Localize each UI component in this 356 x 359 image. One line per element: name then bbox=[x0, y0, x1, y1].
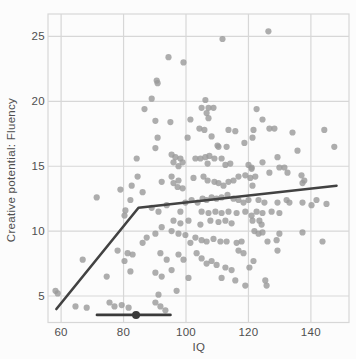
scatter-point bbox=[299, 200, 305, 206]
scatter-point bbox=[192, 235, 198, 241]
scatter-point bbox=[94, 194, 100, 200]
scatter-point bbox=[155, 209, 161, 215]
scatter-point bbox=[159, 274, 165, 280]
scatter-point bbox=[224, 144, 230, 150]
scatter-point bbox=[155, 292, 161, 298]
scatter-point bbox=[266, 170, 272, 176]
scatter-point bbox=[199, 209, 205, 215]
scatter-point bbox=[115, 248, 121, 254]
scatter-point bbox=[219, 155, 225, 161]
scatter-point bbox=[159, 179, 165, 185]
scatter-point bbox=[215, 219, 221, 225]
scatter-point bbox=[175, 251, 181, 257]
scatter-point bbox=[229, 220, 235, 226]
scatter-point bbox=[252, 174, 258, 180]
scatter-point bbox=[299, 180, 305, 186]
scatter-point bbox=[210, 105, 216, 111]
scatter-point bbox=[211, 155, 217, 161]
scatter-point bbox=[127, 197, 133, 203]
scatter-point bbox=[209, 133, 215, 139]
scatter-point bbox=[187, 116, 193, 122]
scatter-point bbox=[222, 218, 228, 224]
scatter-point bbox=[84, 305, 90, 311]
y-axis-title: Creative potential: Fluency bbox=[5, 98, 17, 242]
scatter-point bbox=[254, 106, 260, 112]
scatter-point bbox=[321, 127, 327, 133]
scatter-point bbox=[261, 200, 267, 206]
scatter-point bbox=[313, 197, 319, 203]
scatter-plot: 5101520256080100120140 Creative potentia… bbox=[0, 0, 356, 359]
scatter-point bbox=[294, 148, 300, 154]
scatter-point bbox=[262, 277, 268, 283]
scatter-point bbox=[227, 161, 233, 167]
scatter-point bbox=[177, 220, 183, 226]
y-tick-label: 20 bbox=[32, 95, 45, 107]
scatter-point bbox=[246, 264, 252, 270]
scatter-point bbox=[202, 97, 208, 103]
scatter-point bbox=[205, 161, 211, 167]
scatter-point bbox=[284, 170, 290, 176]
scatter-point bbox=[232, 277, 238, 283]
scatter-point bbox=[265, 28, 271, 34]
x-tick-label: 60 bbox=[54, 326, 67, 338]
scatter-point bbox=[229, 267, 235, 273]
scatter-point bbox=[169, 267, 175, 273]
scatter-point bbox=[129, 183, 135, 189]
scatter-point bbox=[164, 257, 170, 263]
scatter-point bbox=[165, 54, 171, 60]
scatter-point bbox=[249, 218, 255, 224]
scatter-point bbox=[235, 174, 241, 180]
scatter-point bbox=[185, 218, 191, 224]
scatter-point bbox=[331, 144, 337, 150]
scatter-point bbox=[209, 258, 215, 264]
scatter-point bbox=[255, 197, 261, 203]
scatter-point bbox=[121, 213, 127, 219]
scatter-point bbox=[274, 237, 280, 243]
scatter-point bbox=[159, 224, 165, 230]
scatter-point bbox=[219, 210, 225, 216]
scatter-point bbox=[255, 231, 261, 237]
scatter-point bbox=[152, 145, 158, 151]
scatter-point bbox=[259, 210, 265, 216]
scatter-point bbox=[274, 154, 280, 160]
scatter-point bbox=[225, 127, 231, 133]
scatter-point bbox=[180, 185, 186, 191]
scatter-point bbox=[239, 238, 245, 244]
scatter-point bbox=[106, 299, 112, 305]
scatter-point bbox=[264, 283, 270, 289]
scatter-point bbox=[117, 187, 123, 193]
scatter-point bbox=[225, 209, 231, 215]
scatter-point bbox=[185, 275, 191, 281]
scatter-point bbox=[271, 126, 277, 132]
scatter-point bbox=[269, 209, 275, 215]
scatter-point bbox=[242, 209, 248, 215]
scatter-point bbox=[134, 155, 140, 161]
x-axis-title: IQ bbox=[193, 341, 206, 353]
scatter-point bbox=[274, 248, 280, 254]
scatter-point bbox=[177, 209, 183, 215]
scatter-point bbox=[80, 257, 86, 263]
scatter-point bbox=[169, 174, 175, 180]
scatter-point bbox=[190, 175, 196, 181]
scatter-point bbox=[205, 177, 211, 183]
scatter-point bbox=[157, 303, 163, 309]
scatter-point bbox=[194, 250, 200, 256]
scatter-point bbox=[222, 264, 228, 270]
y-tick-label: 25 bbox=[32, 30, 45, 42]
scatter-point bbox=[274, 200, 280, 206]
scatter-point bbox=[232, 128, 238, 134]
scatter-point bbox=[204, 238, 210, 244]
scatter-point bbox=[152, 231, 158, 237]
scatter-point bbox=[55, 290, 61, 296]
scatter-point bbox=[104, 274, 110, 280]
scatter-point bbox=[250, 127, 256, 133]
scatter-point bbox=[175, 177, 181, 183]
scatter-point bbox=[182, 232, 188, 238]
scatter-point bbox=[264, 238, 270, 244]
y-tick-label: 10 bbox=[32, 225, 45, 237]
scatter-point bbox=[180, 257, 186, 263]
scatter-point bbox=[299, 229, 305, 235]
scatter-point bbox=[276, 231, 282, 237]
scatter-point bbox=[152, 118, 158, 124]
scatter-point bbox=[308, 202, 314, 208]
